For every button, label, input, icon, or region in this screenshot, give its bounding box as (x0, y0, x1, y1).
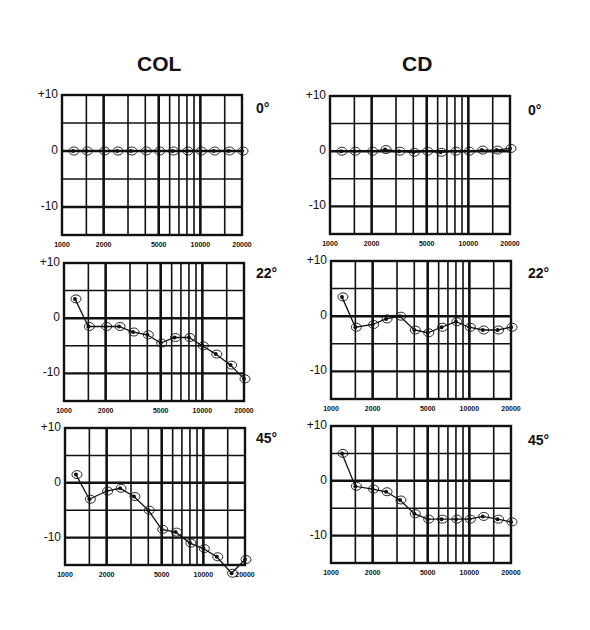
y-tick-label: -10 (297, 363, 327, 377)
angle-label-cd-45: 45° (528, 432, 549, 448)
y-tick-label: +10 (31, 420, 61, 434)
chart-cd-0deg: +100-101000200050001000020000 (330, 96, 510, 234)
y-tick-label: 0 (30, 310, 60, 324)
y-tick-label: +10 (28, 87, 58, 101)
chart-cd-45deg: +100-101000200050001000020000 (331, 426, 511, 563)
x-tick-label: 1000 (322, 240, 338, 247)
x-tick-label: 2000 (98, 407, 114, 414)
y-tick-label: -10 (30, 365, 60, 379)
y-tick-label: 0 (297, 308, 327, 322)
angle-label-col-45: 45° (256, 430, 277, 446)
plot-area (62, 95, 242, 235)
x-tick-label: 2000 (99, 571, 115, 578)
y-tick-label: +10 (30, 255, 60, 269)
plot-area (331, 426, 511, 563)
plot-area (64, 263, 244, 401)
plot-area (65, 428, 245, 565)
y-tick-label: +10 (297, 253, 327, 267)
angle-label-cd-0: 0° (528, 102, 541, 118)
angle-label-col-22: 22° (256, 265, 277, 281)
chart-col-22deg: +100-101000200050001000020000 (64, 263, 244, 401)
x-tick-label: 2000 (96, 241, 112, 248)
y-tick-label: +10 (296, 88, 326, 102)
x-tick-label: 5000 (153, 407, 169, 414)
x-tick-label: 10000 (459, 240, 478, 247)
x-tick-label: 20000 (232, 241, 251, 248)
y-tick-label: -10 (296, 198, 326, 212)
y-tick-label: -10 (31, 530, 61, 544)
y-tick-label: 0 (31, 475, 61, 489)
angle-label-col-0: 0° (256, 100, 269, 116)
x-tick-label: 20000 (234, 407, 253, 414)
y-tick-label: -10 (28, 199, 58, 213)
plot-area (331, 261, 511, 399)
x-tick-label: 10000 (193, 407, 212, 414)
x-tick-label: 10000 (194, 571, 213, 578)
x-tick-label: 10000 (460, 405, 479, 412)
x-tick-label: 5000 (151, 241, 167, 248)
x-tick-label: 20000 (500, 240, 519, 247)
x-tick-label: 10000 (191, 241, 210, 248)
column-title-cd: CD (402, 52, 432, 76)
x-tick-label: 1000 (57, 571, 73, 578)
plot-area (330, 96, 510, 234)
y-tick-label: 0 (297, 473, 327, 487)
x-tick-label: 1000 (56, 407, 72, 414)
x-tick-label: 5000 (420, 569, 436, 576)
x-tick-label: 5000 (420, 405, 436, 412)
x-tick-label: 1000 (54, 241, 70, 248)
x-tick-label: 20000 (235, 571, 254, 578)
x-tick-label: 2000 (365, 569, 381, 576)
x-tick-label: 2000 (365, 405, 381, 412)
chart-col-0deg: +100-101000200050001000020000 (62, 95, 242, 235)
x-tick-label: 1000 (323, 569, 339, 576)
chart-col-45deg: +100-101000200050001000020000 (65, 428, 245, 565)
y-tick-label: -10 (297, 528, 327, 542)
x-tick-label: 5000 (154, 571, 170, 578)
x-tick-label: 5000 (419, 240, 435, 247)
y-tick-label: 0 (296, 143, 326, 157)
x-tick-label: 20000 (501, 405, 520, 412)
x-tick-label: 20000 (501, 569, 520, 576)
chart-cd-22deg: +100-101000200050001000020000 (331, 261, 511, 399)
x-tick-label: 2000 (364, 240, 380, 247)
x-tick-label: 1000 (323, 405, 339, 412)
x-tick-label: 10000 (460, 569, 479, 576)
y-tick-label: +10 (297, 418, 327, 432)
y-tick-label: 0 (28, 143, 58, 157)
angle-label-cd-22: 22° (528, 265, 549, 281)
column-title-col: COL (137, 52, 181, 76)
